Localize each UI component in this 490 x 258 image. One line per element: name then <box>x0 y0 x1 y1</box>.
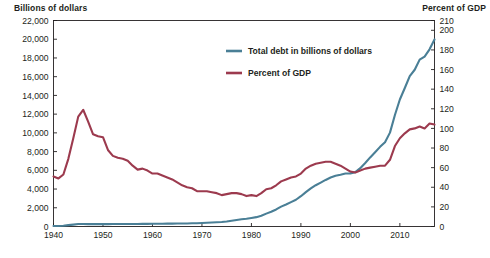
right-axis-tick-label: 210 <box>440 16 455 26</box>
right-axis-tick-label: 140 <box>440 84 455 94</box>
series-lines <box>54 39 435 226</box>
x-axis-tick-label: 1970 <box>192 230 211 240</box>
x-axis-tick-label: 2010 <box>390 230 409 240</box>
right-axis-tick-label: 60 <box>440 163 450 173</box>
series-line-percent-gdp <box>54 110 435 196</box>
x-axis-tick-label: 1950 <box>93 230 112 240</box>
x-axis-tick-label: 2000 <box>341 230 360 240</box>
series-line-total-debt <box>54 39 435 226</box>
debt-chart: 02,0004,0006,0008,00010,00012,00014,0001… <box>0 0 490 258</box>
right-axis-tick-label: 100 <box>440 124 455 134</box>
x-axis-tick-label: 1990 <box>291 230 310 240</box>
right-axis-tick-label: 40 <box>440 182 450 192</box>
left-axis-tick-label: 10,000 <box>22 128 49 138</box>
left-axis-tick-label: 2,000 <box>27 203 49 213</box>
x-axis-tick-label: 1980 <box>242 230 261 240</box>
left-axis-tick-label: 14,000 <box>22 91 49 101</box>
chart-figure: Billions of dollars Percent of GDP 02,00… <box>0 0 490 258</box>
right-axis-tick-label: 180 <box>440 45 455 55</box>
x-axis-tick-label: 1960 <box>143 230 162 240</box>
right-axis-tick-label: 0 <box>440 222 445 232</box>
right-axis-tick-label: 20 <box>440 202 450 212</box>
right-axis-tick-label: 200 <box>440 25 455 35</box>
chart-legend: Total debt in billions of dollarsPercent… <box>226 46 372 78</box>
x-axis-ticks: 19401950196019701980199020002010 <box>44 223 410 240</box>
left-axis-tick-label: 16,000 <box>22 72 49 82</box>
left-axis-ticks: 02,0004,0006,0008,00010,00012,00014,0001… <box>22 16 57 232</box>
left-axis-tick-label: 4,000 <box>27 184 49 194</box>
left-axis-tick-label: 8,000 <box>27 147 49 157</box>
right-axis-tick-label: 160 <box>440 65 455 75</box>
legend-label: Total debt in billions of dollars <box>248 46 372 56</box>
legend-label: Percent of GDP <box>248 68 311 78</box>
left-axis-tick-label: 20,000 <box>22 34 49 44</box>
left-axis-tick-label: 6,000 <box>27 165 49 175</box>
left-axis-tick-label: 18,000 <box>22 53 49 63</box>
left-axis-tick-label: 22,000 <box>22 16 49 26</box>
right-axis-tick-label: 80 <box>440 143 450 153</box>
left-axis-tick-label: 12,000 <box>22 109 49 119</box>
x-axis-tick-label: 1940 <box>44 230 63 240</box>
right-axis-tick-label: 120 <box>440 104 455 114</box>
